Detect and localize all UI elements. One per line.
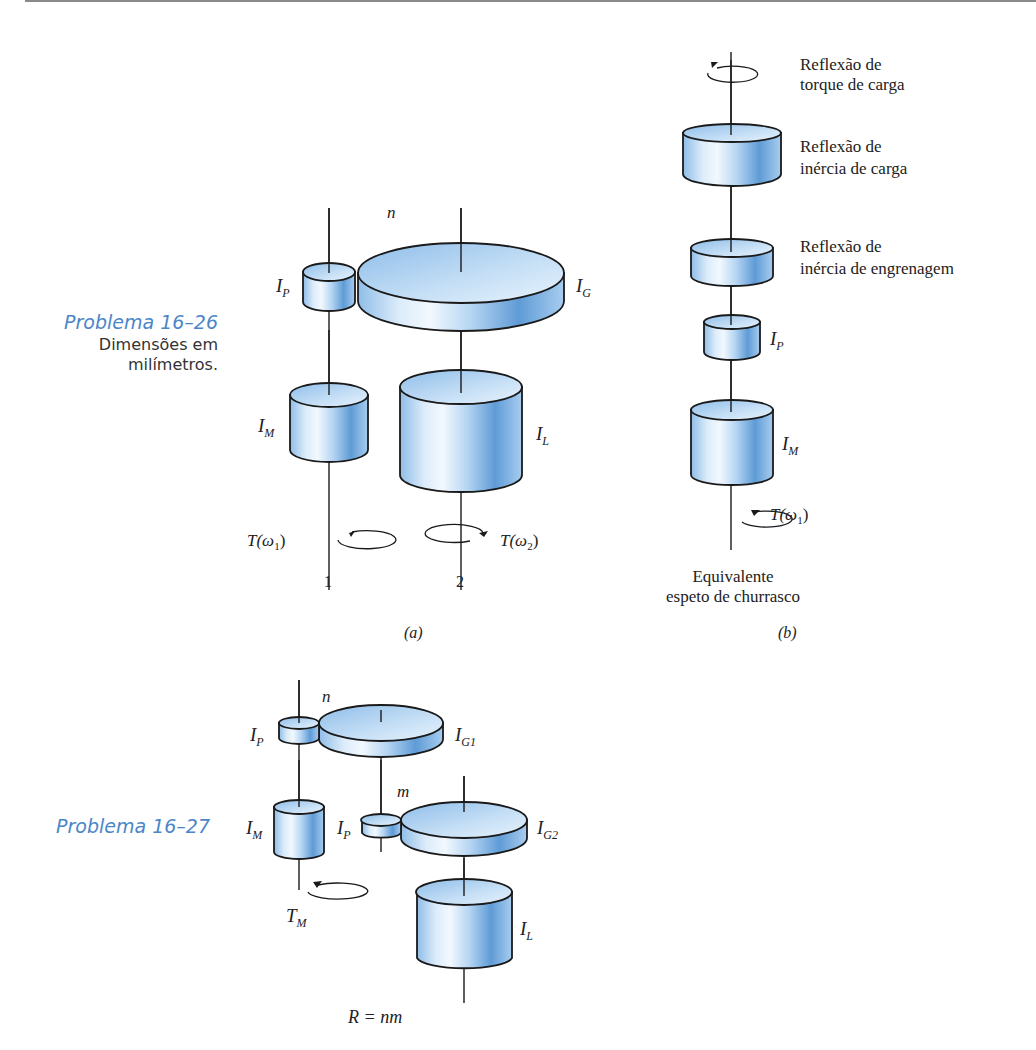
load-cylinder-c — [416, 858, 512, 968]
motor-cylinder-b — [691, 360, 773, 485]
torque-label-b: T(ω1) — [770, 505, 808, 526]
torque-1-label: T(ω1) — [247, 531, 285, 552]
ratio-relation-label: R = nm — [347, 1007, 402, 1027]
gear-train-diagram: n IP IG IM IL T(ω1) T(ω2) 1 2 (a) — [0, 0, 1036, 1050]
load-torque-reflection-label-2: torque de carga — [800, 75, 905, 94]
pinion-cylinder-b — [704, 285, 760, 360]
ratio-m-label-c: m — [397, 782, 409, 801]
shaft-1-number: 1 — [324, 573, 332, 590]
load-torque-reflection-label-1: Reflexão de — [800, 55, 882, 74]
motor-cylinder-c — [274, 760, 324, 859]
rotation-arrow-1-icon — [338, 531, 396, 549]
load-inertia-reflection-label-2: inércia de carga — [800, 159, 908, 178]
motor-label: IM — [257, 415, 275, 440]
load-cylinder — [400, 330, 522, 492]
pinion-1-cylinder — [279, 680, 319, 744]
rotation-arrow-2-icon — [425, 524, 483, 542]
shaft-2-number: 2 — [456, 573, 464, 590]
pinion-label-b: IP — [769, 328, 784, 353]
figure-a: n IP IG IM IL T(ω1) T(ω2) 1 2 (a) — [247, 203, 591, 642]
load-torque-rotation-icon — [708, 66, 758, 82]
pinion-1-label: IP — [249, 724, 264, 749]
motor-cylinder — [290, 330, 368, 462]
figure-a-caption: (a) — [404, 624, 423, 642]
load-label: IL — [535, 423, 549, 448]
gear-cylinder — [358, 208, 564, 331]
motor-label-b: IM — [781, 433, 799, 458]
motor-label-c: IM — [245, 817, 263, 842]
gear-2-cylinder — [401, 776, 527, 856]
load-inertia-reflection-label-1: Reflexão de — [800, 137, 882, 156]
pinion-2-label: IP — [336, 817, 351, 842]
gear-inertia-reflection-label-2: inércia de engrenagem — [800, 259, 954, 278]
equivalent-label-1: Equivalente — [692, 567, 773, 586]
gear-inertia-reflection-label-1: Reflexão de — [800, 237, 882, 256]
load-label-c: IL — [519, 918, 533, 943]
figure-16-27: n m IP IG1 IP IG2 IM IL TM R = nm — [245, 680, 558, 1027]
load-inertia-reflection-cylinder — [683, 60, 781, 186]
figure-b-caption: (b) — [778, 624, 797, 642]
torque-2-label: T(ω2) — [500, 531, 538, 552]
ratio-n-label-c: n — [322, 687, 331, 706]
gear-1-cylinder — [319, 705, 443, 757]
pinion-2-cylinder — [361, 760, 401, 838]
figure-b: Reflexão de torque de carga Reflexão de … — [666, 52, 954, 642]
pinion-cylinder — [303, 208, 355, 311]
torque-label-c: TM — [286, 905, 308, 930]
equivalent-label-2: espeto de churrasco — [666, 587, 800, 606]
ratio-n-label: n — [387, 203, 396, 222]
gear-label: IG — [575, 275, 591, 300]
gear-1-label: IG1 — [454, 724, 476, 749]
gear-inertia-reflection-cylinder — [691, 185, 773, 286]
pinion-label: IP — [275, 275, 290, 300]
gear-2-label: IG2 — [536, 817, 558, 842]
